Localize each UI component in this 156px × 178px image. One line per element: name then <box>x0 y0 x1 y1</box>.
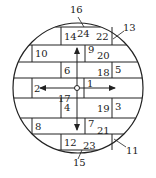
part-label-9: 9 <box>88 45 94 55</box>
leader-line-16 <box>78 17 84 27</box>
leader-line-11 <box>114 139 126 147</box>
part-label-12: 12 <box>64 138 77 148</box>
part-label-20: 20 <box>97 51 110 61</box>
part-label-13: 13 <box>123 23 136 33</box>
part-label-2: 2 <box>34 84 40 94</box>
part-label-23: 23 <box>83 141 96 151</box>
part-label-19: 19 <box>97 104 110 114</box>
part-label-21: 21 <box>97 126 110 136</box>
part-label-4: 4 <box>64 103 70 113</box>
part-label-6: 6 <box>64 66 70 76</box>
part-label-1: 1 <box>87 79 93 89</box>
brick-circle-diagram: 161314242210920618521174193872112231115 <box>0 0 156 178</box>
part-label-24: 24 <box>77 29 90 39</box>
part-label-8: 8 <box>35 122 41 132</box>
part-label-3: 3 <box>115 102 121 112</box>
part-label-14: 14 <box>64 32 77 42</box>
part-label-16: 16 <box>70 5 83 15</box>
part-label-5: 5 <box>115 65 121 75</box>
part-label-11: 11 <box>126 146 139 156</box>
part-label-18: 18 <box>97 68 110 78</box>
part-label-7: 7 <box>88 119 94 129</box>
part-label-15: 15 <box>73 158 86 168</box>
part-label-22: 22 <box>96 32 109 42</box>
center-point-marker <box>75 86 80 91</box>
part-label-10: 10 <box>35 49 48 59</box>
